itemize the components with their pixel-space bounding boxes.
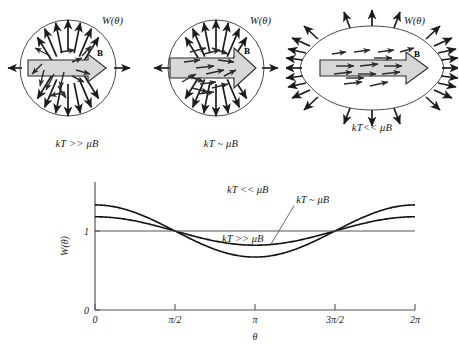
x-tick-label: π/2 <box>169 314 182 325</box>
field-arrow <box>28 54 106 82</box>
y-tick-label: 0 <box>84 305 89 316</box>
field-label: B <box>414 49 420 59</box>
boundary-arrows-left <box>286 26 318 110</box>
distribution-plot: 0π/2π3π/22π 01 kT << μBkT ~ μBkT >> μB θ… <box>0 168 459 345</box>
curve-annotation: kT ~ μB <box>296 194 330 205</box>
x-axis-title: θ <box>253 331 258 342</box>
panel-row: B W(θ) kT <box>0 0 459 170</box>
distribution-label: W(θ) <box>250 15 271 27</box>
figure-root: B W(θ) kT <box>0 0 459 345</box>
x-tick-label: π <box>252 314 258 325</box>
x-tick-label: 3π/2 <box>325 314 344 325</box>
y-axis-title: W(θ) <box>59 235 71 256</box>
panel-caption-low-temperature: kT<< μB <box>286 122 458 133</box>
distribution-plot-svg: 0π/2π3π/22π 01 kT << μBkT ~ μBkT >> μB θ… <box>0 168 459 345</box>
panel-low-temperature: B W(θ) <box>286 0 458 170</box>
panel-caption-high-temperature: kT >> μB <box>2 138 152 149</box>
field-arrow <box>320 52 428 84</box>
y-tick-label: 1 <box>84 226 89 237</box>
panel-comparable-temperature: B W(θ) <box>146 0 296 170</box>
panel-caption-comparable-temperature: kT ~ μB <box>146 138 296 149</box>
x-tick-label: 0 <box>93 314 98 325</box>
y-axis-ticks: 01 <box>84 226 100 316</box>
panel-low-temperature-drawing: B W(θ) <box>286 0 458 170</box>
curve-annotation: kT << μB <box>227 184 269 195</box>
field-label: B <box>97 48 103 58</box>
field-label: B <box>244 46 250 56</box>
curve-annotation: kT >> μB <box>222 233 264 244</box>
curve-annotations: kT << μBkT ~ μBkT >> μB <box>222 184 330 244</box>
annotation-leader-line <box>271 206 294 245</box>
panel-high-temperature: B W(θ) kT <box>2 0 152 170</box>
x-axis-ticks: 0π/2π3π/22π <box>93 304 421 325</box>
distribution-label: W(θ) <box>102 15 123 27</box>
x-tick-label: 2π <box>410 314 421 325</box>
boundary-arrows-right <box>426 26 458 110</box>
plot-curves <box>95 205 415 257</box>
distribution-label: W(θ) <box>404 15 425 27</box>
